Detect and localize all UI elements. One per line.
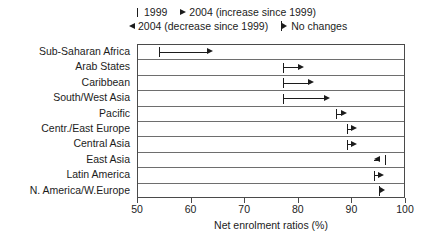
value-marker-1999 — [385, 155, 386, 165]
value-marker-2004 — [298, 64, 304, 70]
arrow-left-icon — [129, 23, 135, 29]
x-axis-tick-label: 70 — [238, 203, 250, 216]
value-marker-2004 — [351, 141, 357, 147]
change-connector-line — [159, 52, 208, 53]
legend-label-no-changes: No changes — [291, 20, 347, 33]
change-connector-line — [283, 98, 326, 99]
chart-row — [138, 168, 404, 183]
category-label: Central Asia — [0, 136, 133, 151]
chart-row — [138, 107, 404, 122]
chart-figure: 1999 2004 (increase since 1999) 2004 (de… — [0, 0, 425, 245]
chart-row — [138, 184, 404, 199]
value-marker-2004 — [351, 125, 357, 131]
legend-item-2004-decrease: 2004 (decrease since 1999) — [129, 20, 268, 33]
value-marker-2004 — [324, 95, 330, 101]
x-axis-tick-labels: 5060708090100 — [0, 203, 425, 217]
chart-row — [138, 137, 404, 152]
x-axis-tick-label: 90 — [346, 203, 358, 216]
chart-row — [138, 122, 404, 137]
category-axis-labels: Sub-Saharan AfricaArab StatesCaribbeanSo… — [0, 44, 133, 198]
legend-item-2004-increase: 2004 (increase since 1999) — [180, 6, 316, 19]
category-label: Sub-Saharan Africa — [0, 44, 133, 59]
legend-item-1999: 1999 — [137, 6, 167, 19]
legend-row-2: 2004 (decrease since 1999) No changes — [129, 19, 425, 33]
no-change-marker-icon — [281, 21, 288, 31]
tick-marker-icon — [137, 8, 141, 17]
category-label: Arab States — [0, 59, 133, 74]
x-axis-title: Net enrolment ratios (%) — [137, 219, 405, 231]
category-label: Centr./East Europe — [0, 121, 133, 136]
legend-row-1: 1999 2004 (increase since 1999) — [137, 5, 425, 19]
value-marker-2004 — [207, 48, 213, 54]
legend-label-2004-increase: 2004 (increase since 1999) — [189, 6, 316, 19]
category-label: Caribbean — [0, 75, 133, 90]
no-change-marker — [379, 186, 385, 196]
chart-row — [138, 153, 404, 168]
category-label: South/West Asia — [0, 90, 133, 105]
value-marker-2004 — [341, 110, 347, 116]
legend-label-1999: 1999 — [144, 6, 167, 19]
change-connector-line — [283, 83, 310, 84]
value-marker-2004 — [374, 156, 380, 162]
value-marker-2004 — [378, 172, 384, 178]
x-axis-tick-label: 50 — [131, 203, 143, 216]
category-label: N. America/W.Europe — [0, 183, 133, 198]
value-marker-2004 — [308, 79, 314, 85]
x-axis-tick-label: 80 — [292, 203, 304, 216]
plot-area — [137, 44, 405, 198]
x-axis-tick-label: 60 — [185, 203, 197, 216]
category-label: East Asia — [0, 152, 133, 167]
category-label: Pacific — [0, 106, 133, 121]
arrow-right-icon — [180, 9, 186, 15]
x-axis-tick-label: 100 — [396, 203, 414, 216]
chart-row — [138, 60, 404, 75]
chart-row — [138, 45, 404, 60]
legend-label-2004-decrease: 2004 (decrease since 1999) — [138, 20, 268, 33]
legend-item-no-changes: No changes — [281, 20, 347, 33]
category-label: Latin America — [0, 167, 133, 182]
chart-legend: 1999 2004 (increase since 1999) 2004 (de… — [137, 5, 425, 33]
chart-row — [138, 76, 404, 91]
chart-row — [138, 91, 404, 106]
